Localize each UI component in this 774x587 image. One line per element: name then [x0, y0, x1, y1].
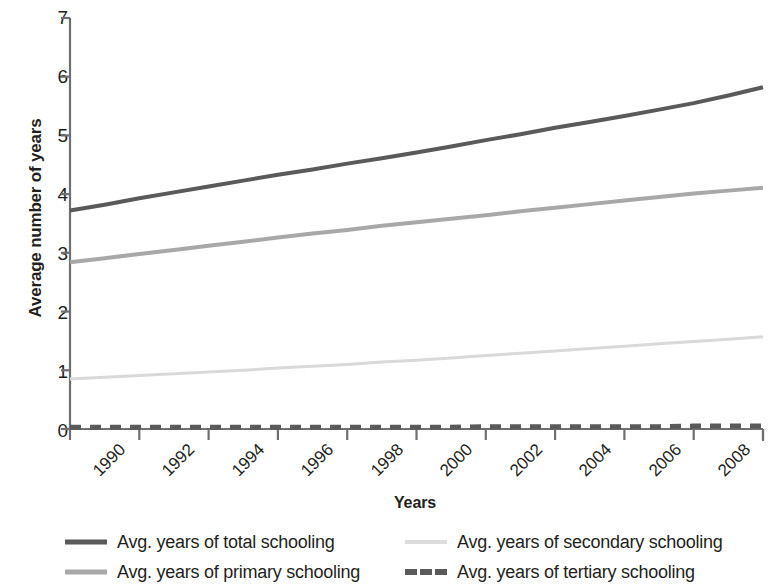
x-axis-title: Years	[345, 494, 485, 512]
series-line	[70, 337, 763, 379]
chart-figure: Average number of years 7 6 5 4 3 2 1 0 …	[0, 0, 774, 587]
legend-swatch-primary-icon	[65, 565, 107, 579]
legend-label: Avg. years of primary schooling	[117, 562, 360, 583]
chart-legend: Avg. years of total schooling Avg. years…	[0, 527, 774, 587]
x-tick-marks	[70, 429, 763, 440]
legend-item-total[interactable]: Avg. years of total schooling	[65, 527, 335, 557]
series-lines	[70, 87, 763, 427]
legend-item-tertiary[interactable]: Avg. years of tertiary schooling	[405, 557, 695, 587]
y-tick-marks	[61, 18, 70, 429]
series-line	[70, 188, 763, 263]
series-line	[70, 426, 763, 427]
legend-label: Avg. years of tertiary schooling	[457, 562, 695, 583]
legend-label: Avg. years of secondary schooling	[457, 532, 723, 553]
legend-swatch-secondary-icon	[405, 535, 447, 549]
legend-swatch-tertiary-icon	[405, 565, 447, 579]
legend-label: Avg. years of total schooling	[117, 532, 335, 553]
legend-swatch-total-icon	[65, 535, 107, 549]
series-line	[70, 87, 763, 210]
legend-item-primary[interactable]: Avg. years of primary schooling	[65, 557, 360, 587]
legend-item-secondary[interactable]: Avg. years of secondary schooling	[405, 527, 723, 557]
axis-lines	[70, 18, 763, 441]
